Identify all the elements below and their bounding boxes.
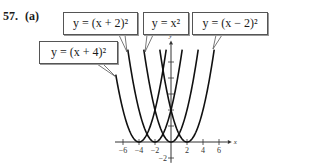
equation-label-x-squared: y = x² — [143, 12, 189, 35]
parabola-curve — [160, 50, 214, 142]
equation-label-x-plus-2: y = (x + 2)² — [63, 12, 138, 35]
equation-label-x-minus-2: y = (x − 2)² — [192, 12, 268, 35]
x-axis-arrow-icon — [228, 140, 232, 144]
y-axis-arrow-icon — [169, 40, 173, 44]
parabola-curve — [128, 50, 182, 142]
x-tick-label: −4 — [135, 146, 144, 155]
equation-label-x-plus-4: y = (x + 4)² — [39, 41, 118, 64]
label-pointer — [145, 35, 153, 52]
parabola-curve — [116, 50, 166, 142]
x-tick-label: −6 — [119, 146, 128, 155]
label-pointer — [213, 35, 222, 49]
x-tick-label: 4 — [201, 146, 205, 155]
y-tick-label: −2 — [158, 154, 167, 163]
label-pointer — [119, 35, 127, 52]
x-tick-label: 6 — [217, 146, 221, 155]
x-tick-label: 2 — [185, 146, 189, 155]
x-axis-label: x — [233, 138, 238, 146]
label-pointer — [97, 64, 116, 77]
